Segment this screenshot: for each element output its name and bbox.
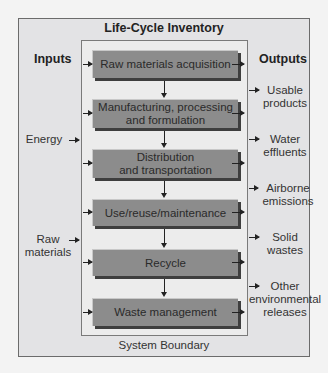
arrow-right-icon [69, 140, 79, 141]
arrow-right-icon [83, 312, 92, 313]
arrow-right-icon [83, 113, 92, 114]
input-label-line1: Raw [20, 233, 76, 246]
output-airborne-emissions: Airborne emissions [257, 182, 319, 208]
stage-use-reuse-maintenance: Use/reuse/maintenance [92, 199, 238, 226]
stage-waste-management: Waste management [92, 298, 238, 326]
stage-distribution: Distribution and transportation [92, 149, 238, 178]
output-label-line1: Airborne [257, 182, 319, 195]
arrow-down-icon [161, 143, 167, 148]
output-label-line1: Usable [254, 84, 316, 97]
output-label-line1: Solid [254, 231, 316, 244]
arrow-down-icon [161, 93, 167, 98]
stage-raw-materials-acquisition: Raw materials acquisition [92, 50, 238, 78]
arrow-right-icon [69, 240, 79, 241]
input-label-line2: materials [20, 246, 76, 259]
arrow-right-icon [83, 212, 92, 213]
arrow-right-icon [232, 163, 244, 164]
stage-manufacturing: Manufacturing, processing and formulatio… [92, 99, 238, 128]
input-label: Energy [20, 133, 68, 146]
output-label-line1: Water [254, 133, 316, 146]
stage-label-line1: Distribution [119, 151, 212, 164]
output-label-line3: releases [248, 306, 322, 319]
outputs-header: Outputs [259, 52, 307, 66]
arrow-right-icon [232, 113, 244, 114]
input-raw-materials: Raw materials [20, 233, 76, 259]
output-other-environmental-releases: Other environmental releases [248, 280, 322, 319]
stage-label: Raw materials acquisition [100, 58, 230, 71]
arrow-right-icon [83, 163, 92, 164]
flow-arrow [164, 279, 165, 293]
stage-recycle: Recycle [92, 249, 238, 276]
output-water-effluents: Water effluents [254, 133, 316, 159]
arrow-down-icon [161, 243, 167, 248]
flow-arrow [164, 229, 165, 244]
stage-label-line1: Manufacturing, processing [98, 101, 233, 114]
diagram-title: Life-Cycle Inventory [0, 21, 328, 35]
stage-label: Recycle [145, 257, 186, 270]
arrow-right-icon [83, 64, 92, 65]
arrow-down-icon [161, 193, 167, 198]
arrow-right-icon [232, 64, 244, 65]
arrow-right-icon [83, 262, 92, 263]
stage-label-line2: and formulation [98, 114, 233, 127]
output-solid-wastes: Solid wastes [254, 231, 316, 257]
system-boundary-label: System Boundary [0, 339, 328, 351]
inputs-header: Inputs [34, 52, 72, 66]
stage-label: Waste management [114, 306, 216, 319]
arrow-right-icon [232, 262, 244, 263]
output-label-line2: environmental [248, 293, 322, 306]
input-energy: Energy [20, 133, 68, 146]
arrow-down-icon [161, 292, 167, 297]
output-label-line2: effluents [254, 146, 316, 159]
output-label-line2: products [254, 97, 316, 110]
stage-label-line2: and transportation [119, 164, 212, 177]
output-label-line1: Other [248, 280, 322, 293]
output-usable-products: Usable products [254, 84, 316, 110]
arrow-right-icon [232, 312, 244, 313]
arrow-right-icon [232, 212, 244, 213]
output-label-line2: wastes [254, 244, 316, 257]
stage-label: Use/reuse/maintenance [105, 207, 226, 220]
output-label-line2: emissions [257, 195, 319, 208]
